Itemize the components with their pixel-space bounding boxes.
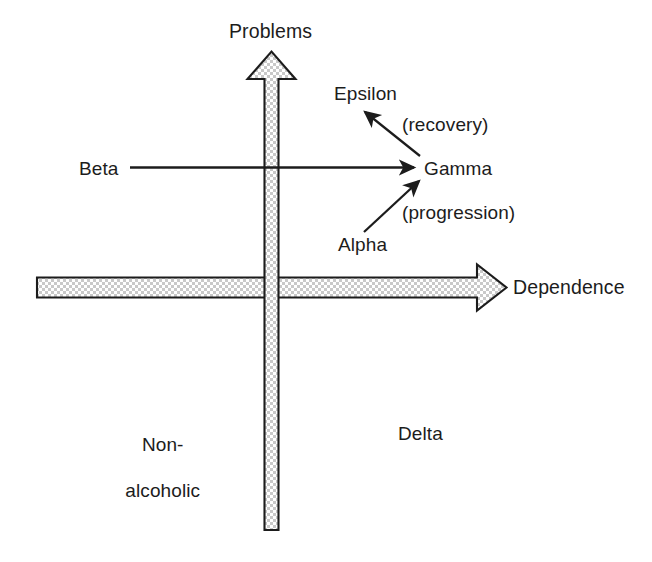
quadrant-label-non-alcoholic: Non- alcoholic xyxy=(100,410,204,525)
axis-label-problems: Problems xyxy=(229,20,312,43)
quadrant-label-non-alcoholic-line2: alcoholic xyxy=(125,480,200,501)
connector-label-progression: (progression) xyxy=(402,201,515,224)
node-label-beta: Beta xyxy=(79,157,119,180)
connector-label-recovery: (recovery) xyxy=(402,113,489,136)
quadrant-label-delta: Delta xyxy=(398,422,443,445)
quadrant-label-non-alcoholic-line1: Non- xyxy=(142,434,184,455)
diagram-canvas: Problems Dependence Epsilon (recovery) G… xyxy=(0,0,652,562)
node-label-gamma: Gamma xyxy=(424,157,492,180)
node-label-alpha: Alpha xyxy=(338,233,387,256)
axis-label-dependence: Dependence xyxy=(513,276,625,299)
node-label-epsilon: Epsilon xyxy=(334,82,397,105)
